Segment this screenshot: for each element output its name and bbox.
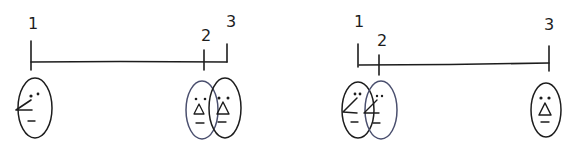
label-point-2: 2 [377, 31, 387, 50]
right-diagram: 1 2 3 [342, 12, 561, 139]
profile-face-icon [16, 78, 52, 138]
label-point-1: 1 [354, 12, 364, 31]
label-point-3: 3 [226, 12, 236, 31]
timeline-diagrams: 1 2 3 [0, 0, 571, 149]
left-diagram: 1 2 3 [16, 12, 241, 139]
label-point-1: 1 [28, 14, 38, 33]
surprised-face-icon-3 [209, 78, 241, 138]
label-point-2: 2 [201, 26, 211, 45]
profile-face-icon-2 [364, 81, 397, 139]
surprised-face-icon [531, 83, 561, 137]
surprised-face-icon-2 [186, 81, 218, 139]
label-point-3: 3 [544, 15, 554, 34]
timeline-line [359, 63, 549, 65]
timeline-line [31, 62, 227, 63]
